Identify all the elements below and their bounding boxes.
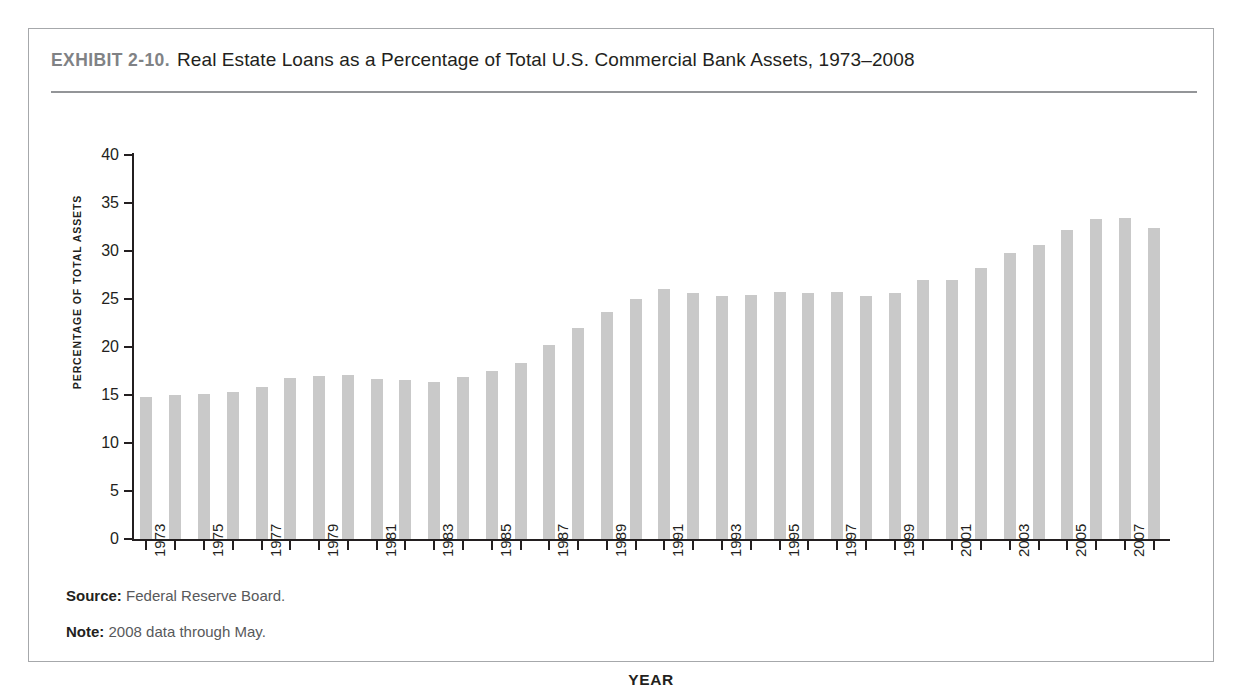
x-axis-tick [520,541,522,550]
bar [457,377,469,539]
bar [284,378,296,539]
bar [515,363,527,539]
note-footnote: Note: 2008 data through May. [66,623,266,640]
x-axis-tick [663,541,665,550]
bar [198,394,210,539]
x-axis-tick [807,541,809,550]
x-axis-tick-label: 1979 [325,524,340,557]
bar [716,296,728,539]
source-text: Federal Reserve Board. [126,587,285,604]
bar [917,280,929,539]
x-axis-tick [836,541,838,550]
x-axis-tick [606,541,608,550]
x-axis-tick [951,541,953,550]
x-axis-tick [491,541,493,550]
bar [140,397,152,539]
x-axis-tick-label: 2005 [1073,524,1088,557]
source-label: Source: [66,587,122,604]
x-axis-tick [894,541,896,550]
x-axis-tick [318,541,320,550]
exhibit-frame: EXHIBIT 2-10.Real Estate Loans as a Perc… [28,28,1214,662]
bar [831,292,843,539]
x-axis-tick-label: 1973 [152,524,167,557]
x-axis-tick [376,541,378,550]
bar [572,328,584,539]
x-axis-tick-label: 1993 [728,524,743,557]
exhibit-title-block: EXHIBIT 2-10.Real Estate Loans as a Perc… [51,49,1197,89]
x-axis-tick-label: 1987 [555,524,570,557]
x-axis-tick-label: 1997 [843,524,858,557]
x-axis-tick-label: 2007 [1131,524,1146,557]
x-axis-tick [433,541,435,550]
exhibit-title-text: Real Estate Loans as a Percentage of Tot… [177,49,915,70]
x-axis-tick [1124,541,1126,550]
x-axis-tick [1066,541,1068,550]
y-axis-tick-labels: 0510152025303540 [69,101,119,541]
y-axis-tick-label: 5 [79,483,119,499]
x-axis-tick [750,541,752,550]
bar [1061,230,1073,539]
x-axis-tick-label: 1977 [268,524,283,557]
bar [1119,218,1131,539]
title-divider [51,91,1197,93]
x-axis-tick-label: 1991 [670,524,685,557]
bar [399,380,411,539]
y-axis-tick-label: 0 [79,531,119,547]
x-axis-tick [203,541,205,550]
exhibit-number-label: EXHIBIT 2-10. [51,50,170,70]
x-axis-tick-label: 1975 [210,524,225,557]
y-axis-tick-label: 15 [79,387,119,403]
x-axis-tick [692,541,694,550]
x-axis-tick [232,541,234,550]
x-axis-title: YEAR [132,671,1170,689]
bar [774,292,786,539]
bar [313,376,325,539]
x-axis-tick [865,541,867,550]
x-axis-tick [1153,541,1155,550]
y-axis-tick-label: 20 [79,339,119,355]
bar [1148,228,1160,539]
bar [428,382,440,539]
x-axis-tick-label: 2001 [958,524,973,557]
x-axis-tick-label: 1995 [786,524,801,557]
y-axis-tick-label: 10 [79,435,119,451]
x-axis-tick [462,541,464,550]
x-axis-tick-label: 1981 [383,524,398,557]
bar [169,395,181,539]
bar [256,387,268,539]
x-axis-tick [347,541,349,550]
bar [371,379,383,539]
x-axis-tick [261,541,263,550]
bar-chart: PERCENTAGE OF TOTAL ASSETS 0510152025303… [29,101,1215,601]
plot-area [132,155,1168,539]
y-axis-tick-label: 40 [79,147,119,163]
x-axis-tick-label: 1989 [613,524,628,557]
x-axis-tick [174,541,176,550]
x-axis-tick [1095,541,1097,550]
bar [946,280,958,539]
x-axis-tick [1009,541,1011,550]
bar [630,299,642,539]
x-axis-tick [721,541,723,550]
x-axis-tick [1038,541,1040,550]
bar [1004,253,1016,539]
x-axis-tick-label: 1999 [901,524,916,557]
bar [860,296,872,539]
bar [745,295,757,539]
y-axis-tick-label: 30 [79,243,119,259]
bar [975,268,987,539]
bar [889,293,901,539]
x-axis-tick-label: 1985 [498,524,513,557]
x-axis-tick-label: 2003 [1016,524,1031,557]
x-axis-tick [980,541,982,550]
bar [687,293,699,539]
bar [486,371,498,539]
note-label: Note: [66,623,104,640]
bar [658,289,670,539]
x-axis-tick-label: 1983 [440,524,455,557]
bar [802,293,814,539]
x-axis-tick [289,541,291,550]
source-footnote: Source: Federal Reserve Board. [66,587,285,604]
y-axis-tick-label: 35 [79,195,119,211]
y-axis-tick-label: 25 [79,291,119,307]
